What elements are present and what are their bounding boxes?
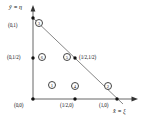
node-number-6: 6 [38, 53, 46, 61]
node-marker-3 [31, 16, 34, 19]
node-marker-1 [31, 97, 34, 100]
node-number-5: 5 [63, 53, 71, 61]
x-axis-arrowhead [132, 97, 139, 102]
node-number-3: 3 [35, 19, 43, 27]
node-marker-5 [73, 56, 76, 59]
node-number-4: 4 [71, 82, 79, 90]
node-coord-label-4: (1/2,0) [60, 103, 73, 108]
reference-triangle-diagram: ŷ ≡ η x̂ ≡ ξ 1 2 3 4 5 6 (0,0) (1,0) (0,… [0, 0, 142, 125]
triangle-hypotenuse [33, 18, 123, 104]
node-coord-label-5: (1/2,1/2) [79, 55, 96, 60]
node-marker-6 [31, 56, 34, 59]
y-axis-label: ŷ ≡ η [9, 3, 22, 10]
x-axis-label: x̂ ≡ ξ [113, 107, 126, 114]
node-number-1: 1 [48, 81, 56, 89]
node-number-2: 2 [104, 82, 112, 90]
node-coord-label-3: (0,1) [8, 23, 17, 28]
node-coord-label-1: (0,0) [14, 103, 23, 108]
node-coord-label-2: (1,0) [99, 103, 108, 108]
node-marker-4 [73, 97, 76, 100]
y-axis-arrowhead [31, 5, 36, 12]
node-marker-2 [115, 97, 118, 100]
node-coord-label-6: (0,1/2) [7, 55, 20, 60]
